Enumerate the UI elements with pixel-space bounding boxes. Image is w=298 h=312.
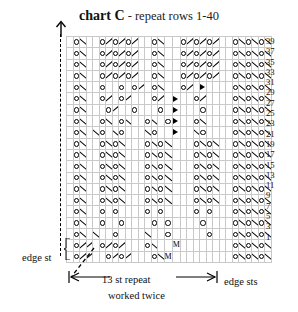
chart-cell <box>164 195 172 206</box>
row-number: 7 <box>266 201 292 211</box>
chart-cell <box>172 59 180 70</box>
chart-grid-body: MM <box>67 37 272 263</box>
symbol-o-icon <box>246 161 252 171</box>
symbol-bs-icon <box>80 184 86 194</box>
symbol-o-icon <box>233 218 239 228</box>
symbol-bs-icon <box>119 139 125 149</box>
chart-cell <box>164 161 172 172</box>
symbol-fs-icon <box>200 71 206 81</box>
symbol-o-icon <box>181 48 187 58</box>
chart-cell <box>164 82 172 93</box>
symbol-bs-icon <box>213 195 219 205</box>
symbol-o-icon <box>152 48 158 58</box>
symbol-o-icon <box>158 206 164 216</box>
symbol-o-icon <box>145 195 151 205</box>
symbol-o-icon <box>246 218 252 228</box>
symbol-o-icon <box>194 173 200 183</box>
chart-row <box>67 93 272 104</box>
symbol-bs-icon <box>106 184 112 194</box>
symbol-o-icon <box>74 139 80 149</box>
symbol-o-icon <box>246 48 252 58</box>
symbol-o-icon <box>194 93 200 103</box>
symbol-o-icon <box>194 48 200 58</box>
symbol-o-icon <box>259 127 265 137</box>
symbol-o-icon <box>113 139 119 149</box>
symbol-fs-icon <box>158 93 164 103</box>
symbol-fs-icon <box>200 60 206 70</box>
symbol-bs-icon <box>80 173 86 183</box>
symbol-o-icon <box>145 161 151 171</box>
symbol-o-icon <box>207 60 213 70</box>
symbol-o-icon <box>145 184 151 194</box>
chart-cell <box>164 116 172 127</box>
symbol-fs-icon <box>200 48 206 58</box>
symbol-o-icon <box>119 218 125 228</box>
symbol-bs-icon <box>145 229 151 239</box>
symbol-o-icon <box>194 195 200 205</box>
row-number: 31 <box>266 77 292 87</box>
symbol-o-icon <box>259 93 265 103</box>
symbol-bs-icon <box>80 139 86 149</box>
symbol-fs-icon <box>187 71 193 81</box>
symbol-fs-icon <box>187 48 193 58</box>
symbol-bs-icon <box>158 82 164 92</box>
symbol-o-icon <box>207 48 213 58</box>
symbol-o-icon <box>113 173 119 183</box>
symbol-bs-icon <box>252 173 258 183</box>
symbol-fs-icon <box>126 93 132 103</box>
symbol-o-icon <box>113 240 119 250</box>
chart-cell <box>164 70 172 81</box>
symbol-fs-icon <box>106 240 112 250</box>
symbol-o-icon <box>152 93 158 103</box>
symbol-o-icon <box>181 60 187 70</box>
symbol-bs-icon <box>252 206 258 216</box>
symbol-bs-icon <box>252 48 258 58</box>
symbol-o-icon <box>74 195 80 205</box>
chart-cell <box>172 172 180 183</box>
symbol-o-icon <box>145 173 151 183</box>
chart-title-sub: - repeat rows 1-40 <box>125 9 219 23</box>
symbol-o-icon <box>200 127 206 137</box>
symbol-fs-icon <box>187 60 193 70</box>
symbol-o-icon <box>200 218 206 228</box>
symbol-bs-icon <box>194 127 200 137</box>
symbol-o-icon <box>207 184 213 194</box>
chart-cell <box>164 229 172 240</box>
chart-cell <box>164 59 172 70</box>
symbol-o-icon <box>207 71 213 81</box>
symbol-bs-icon <box>239 127 245 137</box>
chart-cell-make-one: M <box>164 251 172 262</box>
chart-row: M <box>67 251 272 262</box>
symbol-bs-icon <box>239 48 245 58</box>
row-number: 21 <box>266 129 292 139</box>
symbol-o-icon <box>158 184 164 194</box>
symbol-bs-icon <box>165 139 172 149</box>
symbol-fs-icon <box>213 48 219 58</box>
symbol-o-icon <box>246 105 252 115</box>
symbol-o-icon <box>113 184 119 194</box>
row-number: 11 <box>266 180 292 190</box>
symbol-o-icon <box>259 195 265 205</box>
chart-row <box>67 59 272 70</box>
row-number: 19 <box>266 139 292 149</box>
symbol-o-icon <box>259 82 265 92</box>
symbol-o-icon <box>233 139 239 149</box>
symbol-fs-icon <box>132 60 138 70</box>
symbol-fs-icon <box>119 37 125 47</box>
chart-cell <box>164 172 172 183</box>
symbol-bs-icon <box>265 252 271 262</box>
symbol-o-icon <box>100 139 106 149</box>
symbol-o-icon <box>106 252 112 262</box>
symbol-bs-icon <box>80 48 86 58</box>
symbol-fs-icon <box>213 37 219 47</box>
symbol-bs-icon <box>239 252 245 262</box>
symbol-o-icon <box>259 252 265 262</box>
symbol-o-icon <box>259 218 265 228</box>
row-number: 27 <box>266 98 292 108</box>
symbol-o-icon <box>259 161 265 171</box>
chart-cell <box>172 93 180 104</box>
symbol-o-icon <box>132 105 138 115</box>
row-number: 13 <box>266 170 292 180</box>
symbol-bs-icon <box>239 218 245 228</box>
symbol-bs-icon <box>106 116 112 126</box>
